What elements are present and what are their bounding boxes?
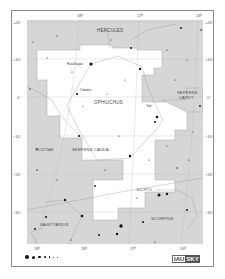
dec-tick-left: −30° — [13, 210, 21, 215]
dec-tick-right: −10° — [205, 134, 213, 139]
ra-tick-bottom: 18ʰ — [34, 246, 40, 251]
dec-tick-left: −20° — [13, 172, 21, 177]
star-name-yed: Yed — [146, 104, 151, 108]
iau-sky-logo: IAU SKY — [172, 255, 200, 263]
logo-sky-text: SKY — [185, 255, 199, 263]
ra-tick-top: 16ʰ — [196, 13, 202, 18]
dec-tick-left: −10° — [13, 134, 21, 139]
label-ecliptic: ECLIPTIC — [137, 188, 152, 192]
ra-tick-bottom: 18ʰ — [81, 246, 87, 251]
label-hercules: HERCULES — [97, 28, 123, 33]
label-sagittarius: SAGITTARIUS — [40, 222, 69, 227]
star-chart[interactable]: HERCULES OPHIUCHUS SERPENS CAPUT SERPENS… — [27, 20, 203, 244]
ra-tick-bottom: 17ʰ — [130, 246, 136, 251]
label-scorpius: SCORPIUS — [151, 216, 174, 221]
dec-tick-left: +20° — [13, 20, 21, 25]
dec-tick-right: +10° — [205, 57, 213, 62]
dec-tick-left: +10° — [13, 57, 21, 62]
label-ophiuchus: OPHIUCHUS — [94, 100, 123, 105]
mag-5-dot — [53, 257, 54, 258]
dec-tick-right: −30° — [205, 210, 213, 215]
label-serpens-cauda: SERPENS CAUDA — [72, 147, 109, 152]
star-name-rasalhague: Rasalhague — [67, 62, 83, 66]
label-scutum: SCUTUM — [35, 147, 53, 152]
mag-0-dot — [25, 255, 29, 259]
ra-tick-top: 18ʰ — [77, 13, 83, 18]
dec-tick-right: −20° — [205, 172, 213, 177]
chart-graphics — [27, 20, 203, 244]
ra-tick-bottom: 16ʰ — [180, 246, 186, 251]
mag-3-dot — [44, 256, 46, 258]
mag-4-dot — [49, 256, 51, 258]
dec-tick-right: 0° — [207, 95, 211, 100]
star-name-cebalrai: Cebalrai — [80, 88, 91, 92]
mag-1-dot — [32, 256, 35, 259]
magnitude-legend — [25, 254, 58, 260]
dec-tick-left: 0° — [17, 95, 21, 100]
ophiuchus-region — [37, 45, 187, 220]
dec-tick-right: +20° — [205, 20, 213, 25]
mag-2-dot — [38, 256, 41, 259]
mag-6-dot — [57, 257, 58, 258]
label-serpens-caput-2: CAPUT — [179, 95, 194, 100]
logo-iau-text: IAU — [172, 255, 185, 263]
ra-tick-top: 17ʰ — [137, 13, 143, 18]
